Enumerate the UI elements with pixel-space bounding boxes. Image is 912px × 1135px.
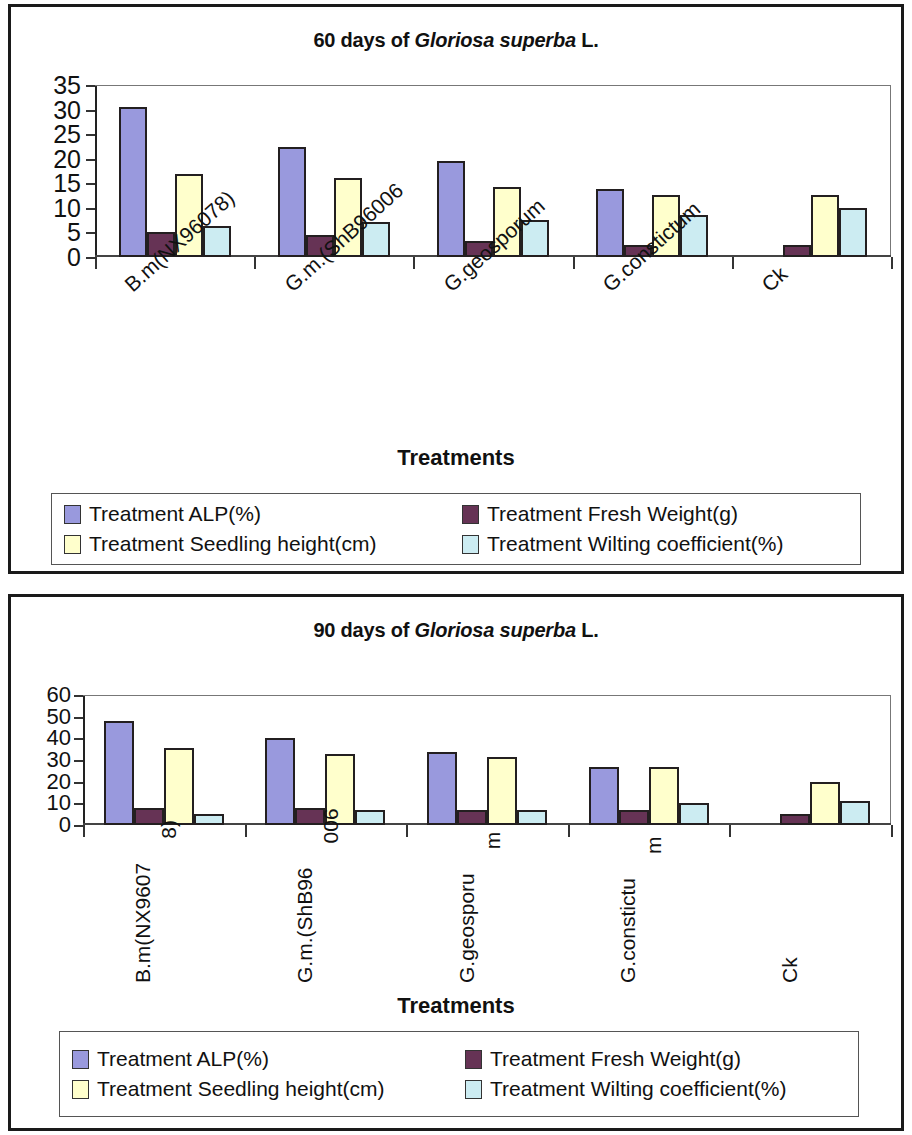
bar [355,810,385,825]
y-axis-tick [86,159,95,161]
x-axis-category-label: G.geosporum [455,832,479,983]
y-axis-tick-label: 10 [53,195,81,220]
x-axis-category-label: G.constictum [616,836,640,983]
legend-item: Treatment Fresh Weight(g) [465,1044,858,1074]
chart-panel-90-days: 90 days of Gloriosa superba L. 010203040… [8,594,904,1131]
bar [487,757,517,825]
legend-label: Treatment ALP(%) [97,1047,269,1071]
x-axis-title-90: Treatments [11,993,901,1019]
legend-swatch-icon [72,1050,89,1069]
y-axis-tick-label: 40 [47,727,71,749]
legend-item: Treatment Seedling height(cm) [64,529,462,559]
x-axis-tick [254,257,256,269]
bar [783,245,811,257]
y-axis-tick-label: 30 [47,749,71,771]
x-axis-category-label-line1: G.constictu [616,878,640,983]
y-axis-tick-label: 30 [53,97,81,122]
bar [427,752,457,825]
x-axis-category-label-line1: Ck [778,957,802,983]
chart-title-60-days: 60 days of Gloriosa superba L. [11,29,901,52]
legend-label: Treatment Seedling height(cm) [97,1077,385,1101]
y-axis-tick [86,85,95,87]
y-axis-tick-label: 50 [47,706,71,728]
legend-swatch-icon [462,535,479,554]
y-axis-tick-label: 5 [67,220,81,245]
y-axis-labels-60: 05101520253035 [11,69,81,241]
legend-label: Treatment Fresh Weight(g) [490,1047,741,1071]
bars-layer-90 [83,695,891,825]
y-axis-tick-label: 20 [47,771,71,793]
legend-60-days: Treatment ALP(%)Treatment Fresh Weight(g… [51,493,861,565]
bar [810,782,840,825]
y-axis-tick [86,110,95,112]
y-axis-tick [74,782,83,784]
chart-panel-60-days: 60 days of Gloriosa superba L. 051015202… [8,4,904,574]
plot-area-60-days: 05101520253035 [11,69,901,269]
bar [164,748,194,825]
x-axis-category-label-line2: 8) [157,820,181,839]
legend-item: Treatment Wilting coefficient(%) [465,1074,858,1104]
y-axis-tick [86,232,95,234]
legend-swatch-icon [64,505,81,524]
x-axis-tick [732,257,734,269]
y-axis-tick-label: 60 [47,684,71,706]
bar [278,147,306,257]
x-axis-tick [245,825,247,837]
x-axis-tick [729,825,731,837]
legend-item: Treatment Fresh Weight(g) [462,499,860,529]
bar [194,814,224,825]
bar [437,161,465,257]
legend-swatch-icon [72,1080,89,1099]
y-axis-labels-90: 0102030405060 [11,683,71,813]
x-axis-category-label: B.m(NX96078) [131,820,155,983]
bar [104,721,134,825]
x-axis-category-label-line1: G.m.(ShB96 [293,867,317,983]
bar [596,189,624,257]
bar [649,767,679,826]
y-axis-tick [74,803,83,805]
x-axis-tick [891,825,893,837]
bar [780,814,810,825]
legend-swatch-icon [465,1050,482,1069]
chart-title-prefix-90: 90 days of [313,619,414,641]
chart-title-suffix-60: L. [576,29,599,51]
x-axis-category-label-line2: m [642,836,666,854]
bar [589,767,619,826]
bar [457,810,487,825]
x-axis-title-60: Treatments [11,445,901,471]
legend-swatch-icon [64,535,81,554]
legend-item: Treatment ALP(%) [64,499,462,529]
y-axis-tick [86,208,95,210]
bar [811,195,839,257]
x-axis-tick [83,825,85,837]
bar [517,810,547,825]
y-axis-tick-label: 15 [53,171,81,196]
legend-item: Treatment ALP(%) [72,1044,465,1074]
legend-item: Treatment Wilting coefficient(%) [462,529,860,559]
chart-title-species-60: Gloriosa superba [415,29,576,51]
y-axis-tick [86,183,95,185]
x-axis-tick [95,257,97,269]
bar [679,803,709,825]
y-axis-tick [74,825,83,827]
bar [840,801,870,825]
legend-90-days: Treatment ALP(%)Treatment Fresh Weight(g… [59,1031,859,1117]
x-axis-category-labels-90: B.m(NX96078)G.m.(ShB96006G.geosporumG.co… [11,845,901,995]
x-axis-category-label: Ck [778,957,802,983]
y-axis-tick-label: 35 [53,73,81,98]
y-axis-tick-label: 20 [53,146,81,171]
legend-item: Treatment Seedling height(cm) [72,1074,465,1104]
legend-swatch-icon [465,1080,482,1099]
chart-title-90-days: 90 days of Gloriosa superba L. [11,619,901,642]
chart-title-prefix-60: 60 days of [313,29,414,51]
y-axis-tick [74,738,83,740]
legend-label: Treatment ALP(%) [89,502,261,526]
y-axis-tick-label: 0 [67,245,81,270]
legend-label: Treatment Fresh Weight(g) [487,502,738,526]
x-axis-tick [573,257,575,269]
x-axis-tick [568,825,570,837]
legend-label: Treatment Wilting coefficient(%) [490,1077,786,1101]
bar [839,208,867,257]
x-axis-category-label-line1: G.geosporu [455,873,479,983]
x-axis-tick [413,257,415,269]
